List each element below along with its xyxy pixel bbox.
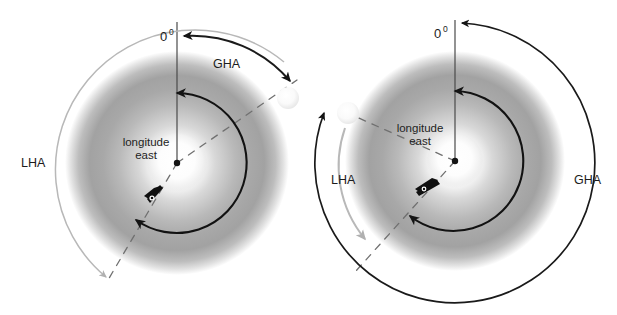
left-lha-label: LHA [21,156,46,170]
hour-angle-diagram-figure: 0 0 GHA LHA longitude east [0,0,617,315]
pole-center-dot [452,158,458,164]
prime-meridian-degree-symbol: 0 [443,24,448,34]
prime-meridian-value: 0 [160,29,167,44]
celestial-body-sun [337,102,359,124]
right-lha-label: LHA [331,173,356,187]
celestial-body-sun [277,87,299,109]
pole-center-dot [174,160,180,166]
right-gha-label: GHA [574,173,602,187]
prime-meridian-degree-symbol: 0 [169,27,174,37]
right-longitude-label-line1: longitude [397,122,444,134]
left-gha-label: GHA [213,57,241,71]
right-longitude-label-line2: east [409,135,432,147]
left-longitude-label-line2: east [135,149,158,161]
diagram-canvas: 0 0 GHA LHA longitude east [0,0,617,315]
left-longitude-label-line1: longitude [123,136,170,148]
prime-meridian-value: 0 [434,26,441,41]
